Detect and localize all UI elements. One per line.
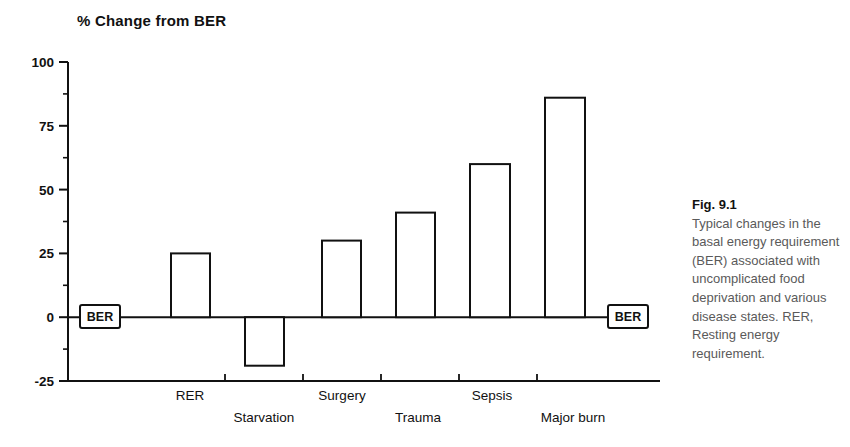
bar-chart-plot: 100 75 50 25 0 -25	[0, 0, 660, 447]
y-tick-label-25: 25	[39, 246, 55, 261]
x-label-sepsis: Sepsis	[472, 388, 513, 403]
ber-marker-right: BER	[608, 305, 648, 328]
y-tick-label-neg25: -25	[34, 374, 54, 389]
x-label-trauma: Trauma	[395, 410, 442, 425]
ber-marker-left: BER	[80, 305, 120, 328]
figure-caption-heading: Fig. 9.1	[692, 196, 844, 215]
figure-caption-body: Typical changes in the basal energy requ…	[692, 216, 839, 361]
x-label-surgery: Surgery	[318, 388, 366, 403]
bar-rer	[171, 253, 210, 317]
figure-caption: Fig. 9.1 Typical changes in the basal en…	[692, 196, 844, 363]
ber-marker-right-label: BER	[615, 310, 641, 324]
x-label-major-burn: Major burn	[541, 410, 606, 425]
bar-major-burn	[545, 98, 585, 318]
bar-surgery	[322, 241, 361, 318]
y-tick-label-75: 75	[39, 119, 55, 134]
bar-trauma	[396, 213, 435, 318]
bar-sepsis	[470, 164, 510, 317]
ber-marker-left-label: BER	[87, 310, 113, 324]
y-tick-label-100: 100	[31, 55, 54, 70]
x-label-starvation: Starvation	[234, 410, 295, 425]
bar-starvation	[245, 317, 284, 366]
y-tick-label-0: 0	[46, 310, 54, 325]
x-axis-category-ticks	[225, 374, 537, 381]
y-tick-label-50: 50	[39, 183, 54, 198]
x-label-rer: RER	[176, 388, 205, 403]
